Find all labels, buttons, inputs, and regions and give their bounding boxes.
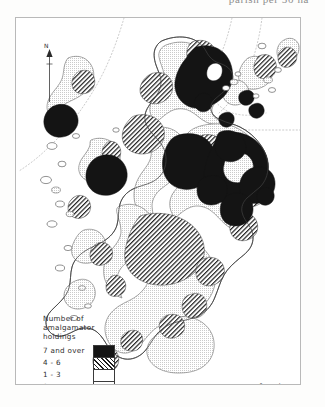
legend-swatch-0: [93, 381, 115, 385]
legend-rows: 7 and over 4 - 6 1 - 3 0: [43, 345, 129, 385]
scale-bar-unit-label: km: [279, 382, 289, 385]
legend-row-1-3: 1 - 3: [43, 369, 129, 381]
page-top-cutoff-text: parish per 50 ha: [0, 0, 325, 9]
scale-bar-min-label: 0: [259, 382, 263, 385]
legend-label-7-and-over: 7 and over: [43, 345, 93, 357]
legend-label-0: 0: [43, 381, 93, 385]
page-top-cutoff-text-value: parish per 50 ha: [229, 0, 309, 5]
legend-row-7-and-over: 7 and over: [43, 345, 129, 357]
legend-label-1-3: 1 - 3: [43, 369, 93, 381]
legend-label-4-6: 4 - 6: [43, 357, 93, 369]
legend-title: Number of amalgamator holdings: [43, 314, 133, 342]
north-arrow-icon: [40, 42, 62, 104]
north-arrow: N: [40, 42, 62, 104]
legend-swatch-7-and-over: [93, 345, 115, 357]
scale-bar: 0 km 50: [259, 382, 301, 385]
map-frame: N Number of amalgamator holdings 7 and o…: [15, 17, 301, 385]
north-arrow-label: N: [44, 42, 49, 49]
legend-row-0: 0: [43, 381, 129, 385]
scale-bar-labels: 0 km 50: [259, 382, 301, 385]
map-legend: Number of amalgamator holdings 7 and ove…: [43, 314, 133, 385]
legend-swatch-4-6: [93, 357, 115, 369]
legend-row-4-6: 4 - 6: [43, 357, 129, 369]
legend-swatch-1-3: [93, 369, 115, 381]
